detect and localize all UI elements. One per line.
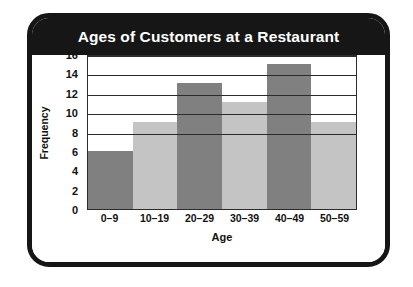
bar — [177, 83, 222, 209]
x-axis-tick: 30–39 — [222, 212, 267, 224]
y-axis-title-label: Frequency — [38, 106, 50, 159]
bar — [311, 122, 356, 209]
chart-body: Frequency 1614121086420 0–910–1920–2930–… — [32, 55, 385, 262]
y-axis-tick: 16 — [66, 50, 78, 61]
y-axis-tick: 14 — [66, 69, 78, 80]
y-axis-tick: 12 — [66, 88, 78, 99]
y-axis-tick: 2 — [72, 185, 78, 196]
gridline — [88, 95, 356, 96]
bar-series — [88, 56, 356, 209]
page-title: Ages of Customers at a Restaurant — [78, 28, 340, 46]
gridline — [88, 114, 356, 115]
bar — [88, 151, 133, 209]
y-axis-tick: 6 — [72, 146, 78, 157]
x-axis-tick: 10–19 — [132, 212, 177, 224]
bar — [133, 122, 178, 209]
gridline — [88, 134, 356, 135]
bar — [267, 64, 312, 209]
x-axis-tick: 50–59 — [312, 212, 357, 224]
chart-title-bar: Ages of Customers at a Restaurant — [32, 18, 385, 55]
y-axis-tick: 8 — [72, 127, 78, 138]
y-axis-tick: 4 — [72, 166, 78, 177]
gridline — [88, 75, 356, 76]
y-axis-tick: 10 — [66, 108, 78, 119]
x-axis-tick-labels: 0–910–1920–2930–3940–4950–59 — [87, 212, 357, 224]
x-axis-title: Age — [87, 231, 357, 243]
chart-card: Ages of Customers at a Restaurant Freque… — [27, 13, 390, 267]
y-axis-tick: 0 — [72, 205, 78, 216]
y-axis-tick-labels: 1614121086420 — [50, 55, 82, 210]
bar — [222, 102, 267, 209]
x-axis-tick: 0–9 — [87, 212, 132, 224]
x-axis-tick: 20–29 — [177, 212, 222, 224]
gridline — [88, 56, 356, 57]
plot-area — [87, 55, 357, 210]
x-axis-tick: 40–49 — [267, 212, 312, 224]
